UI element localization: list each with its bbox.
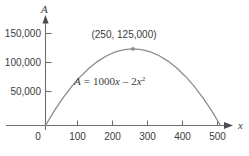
equation-variable-1: x	[114, 75, 120, 87]
parabola-plot: 150,000 100,000 50,000 0 100 200 300 400…	[0, 0, 249, 156]
equation-exponent-2: 2	[142, 75, 146, 83]
x-axis-label-x: x	[237, 119, 243, 131]
equation-lhs: A	[73, 75, 81, 87]
equation-equals: =	[84, 75, 90, 87]
vertex-annotation-label: (250, 125,000)	[91, 29, 156, 40]
equation-coefficient-1: 1000	[93, 75, 116, 87]
x-tick-label-100: 100	[69, 131, 86, 142]
chart-figure: 150,000 100,000 50,000 0 100 200 300 400…	[0, 0, 249, 156]
x-tick-label-500: 500	[209, 131, 226, 142]
vertex-marker-dot	[131, 47, 135, 51]
y-tick-label-100000: 100,000	[5, 57, 42, 68]
y-axis-label-A: A	[40, 3, 48, 15]
x-tick-label-300: 300	[139, 131, 156, 142]
y-tick-label-50000: 50,000	[10, 86, 41, 97]
x-tick-label-200: 200	[104, 131, 121, 142]
equation-minus-sign: –	[122, 75, 129, 87]
equation-label: A=1000x–2x2	[73, 75, 146, 87]
x-tick-label-400: 400	[174, 131, 191, 142]
y-tick-label-150000: 150,000	[5, 28, 42, 39]
x-tick-label-0: 0	[35, 131, 41, 142]
